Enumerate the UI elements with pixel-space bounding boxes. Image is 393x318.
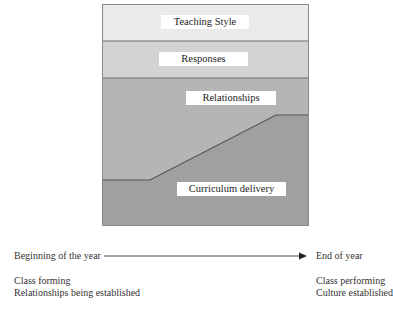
timeline-start-label: Beginning of the year	[14, 250, 101, 262]
diagram-bands	[0, 0, 393, 240]
start-note-class-forming: Class forming	[14, 275, 70, 287]
label-curriculum-delivery: Curriculum delivery	[177, 182, 286, 196]
label-responses: Responses	[159, 52, 248, 66]
end-note-culture-established: Culture established	[316, 287, 393, 299]
timeline-end-label: End of year	[316, 250, 363, 262]
timeline-arrow-icon	[104, 251, 308, 261]
label-relationships: Relationships	[186, 91, 276, 105]
emphasis-diagram: Teaching Style Responses Relationships C…	[0, 0, 393, 240]
label-teaching-style: Teaching Style	[161, 15, 249, 29]
start-note-relationships: Relationships being established	[14, 287, 140, 299]
end-note-class-performing: Class performing	[316, 275, 385, 287]
